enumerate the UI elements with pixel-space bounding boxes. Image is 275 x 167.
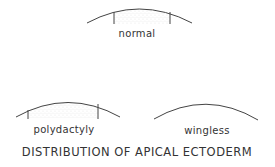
figure-title: DISTRIBUTION OF APICAL ECTODERM [22, 145, 252, 159]
panel-wingless: wingless [154, 104, 258, 136]
apical-ectoderm-region [114, 5, 170, 24]
panel-label-polydactyly: polydactyly [34, 124, 95, 135]
panel-label-normal: normal [119, 28, 156, 39]
limb-outline-arc [154, 104, 258, 120]
apical-ectoderm-diagram: normal polydactyly wingless DISTRIBUTION… [0, 0, 275, 167]
panel-label-wingless: wingless [184, 125, 229, 136]
apical-ectoderm-region [28, 99, 98, 118]
panel-normal: normal [87, 5, 192, 39]
panel-polydactyly: polydactyly [16, 99, 120, 135]
